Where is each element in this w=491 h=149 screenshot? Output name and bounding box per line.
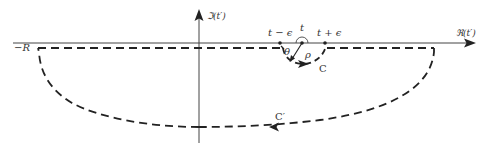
radius-rho-label: ρ — [304, 49, 311, 60]
contour-large-label: C′ — [275, 111, 286, 122]
angle-theta-label: θ — [284, 46, 290, 57]
left-limit-label: −R — [14, 42, 30, 53]
point-t-minus-epsilon — [278, 41, 282, 45]
radius-line — [292, 43, 302, 59]
real-axis-label: ℜ(t′) — [456, 28, 476, 38]
real-axis — [13, 39, 476, 48]
t-label: t — [300, 22, 305, 33]
point-t-plus-epsilon — [323, 41, 327, 45]
t-plus-epsilon-label: t + ϵ — [317, 27, 342, 38]
contour-small-label: C — [319, 63, 327, 74]
imaginary-axis — [195, 9, 204, 143]
contour-diagram: ℑ(t′) ℜ(t′) −R t − ϵ t t + ϵ θ ρ C C′ — [0, 0, 491, 149]
contour-large — [38, 48, 434, 127]
t-minus-epsilon-label: t − ϵ — [268, 27, 293, 38]
imaginary-axis-label: ℑ(t′) — [207, 11, 226, 21]
point-t — [300, 41, 304, 45]
